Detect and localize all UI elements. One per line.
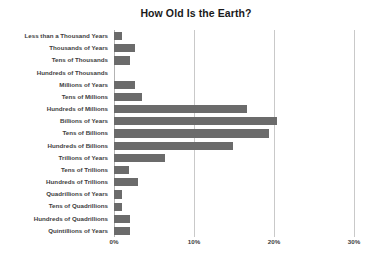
bar [114,190,122,198]
bar [114,178,138,186]
bar-row [114,115,354,127]
category-label: Hundreds of Trillions [46,179,108,185]
category-label: Quintillions of Years [48,228,108,234]
bar-row [114,164,354,176]
bar [114,129,269,137]
category-label: Hundreds of Quadrillions [34,216,108,222]
bar-row [114,42,354,54]
category-label: Less than a Thousand Years [25,33,108,39]
x-tick-label: 20% [268,239,280,245]
category-label: Tens of Quadrillions [49,203,108,209]
bar [114,142,233,150]
bar-row [114,54,354,66]
category-label: Quadrillions of Years [46,191,108,197]
bar [114,44,135,52]
category-label: Tens of Trillions [61,167,108,173]
category-label: Trillions of Years [59,155,108,161]
bar [114,105,247,113]
bar [114,215,130,223]
category-label: Tens of Thousands [52,57,108,63]
bar [114,227,130,235]
category-label: Thousands of Years [49,45,108,51]
chart-container: How Old Is the Earth? Less than a Thousa… [0,0,392,264]
category-label: Hundreds of Billions [47,143,108,149]
category-label-row: Billions of Years [0,115,112,127]
category-label: Hundreds of Thousands [37,70,108,76]
plot-area [114,30,354,237]
category-label-row: Less than a Thousand Years [0,30,112,42]
bar [114,32,122,40]
category-label-row: Quadrillions of Years [0,188,112,200]
bar [114,81,135,89]
category-label-row: Hundreds of Thousands [0,67,112,79]
bar [114,56,130,64]
bar [114,166,129,174]
bar-row [114,152,354,164]
bar-row [114,225,354,237]
category-label-row: Quintillions of Years [0,225,112,237]
category-label: Hundreds of Millions [47,106,108,112]
category-label-row: Tens of Trillions [0,164,112,176]
bar-row [114,30,354,42]
bar-row [114,140,354,152]
category-label-row: Hundreds of Billions [0,140,112,152]
category-axis-labels: Less than a Thousand YearsThousands of Y… [0,30,112,237]
bar-row [114,176,354,188]
bar [114,154,165,162]
category-label-row: Hundreds of Millions [0,103,112,115]
bar-row [114,127,354,139]
category-label-row: Hundreds of Quadrillions [0,213,112,225]
bar-row [114,91,354,103]
x-tick-label: 0% [110,239,119,245]
bar-row [114,200,354,212]
category-label-row: Trillions of Years [0,152,112,164]
value-axis-ticks: 0%10%20%30% [114,239,354,251]
category-label-row: Tens of Quadrillions [0,200,112,212]
bar-row [114,67,354,79]
category-label-row: Millions of Years [0,79,112,91]
bar-row [114,79,354,91]
x-tick-label: 30% [348,239,360,245]
bar-row [114,213,354,225]
bars-group [114,30,354,237]
category-label: Tens of Billions [62,130,108,136]
category-label: Tens of Millions [62,94,108,100]
bar [114,203,122,211]
chart-title: How Old Is the Earth? [0,7,392,19]
bar [114,93,142,101]
category-label: Millions of Years [59,82,108,88]
category-label-row: Tens of Millions [0,91,112,103]
bar [114,117,277,125]
category-label-row: Thousands of Years [0,42,112,54]
bar-row [114,188,354,200]
category-label-row: Tens of Thousands [0,54,112,66]
bar-row [114,103,354,115]
category-label-row: Tens of Billions [0,127,112,139]
category-label-row: Hundreds of Trillions [0,176,112,188]
category-label: Billions of Years [60,118,108,124]
x-tick-label: 10% [188,239,200,245]
gridline-30% [354,30,355,237]
